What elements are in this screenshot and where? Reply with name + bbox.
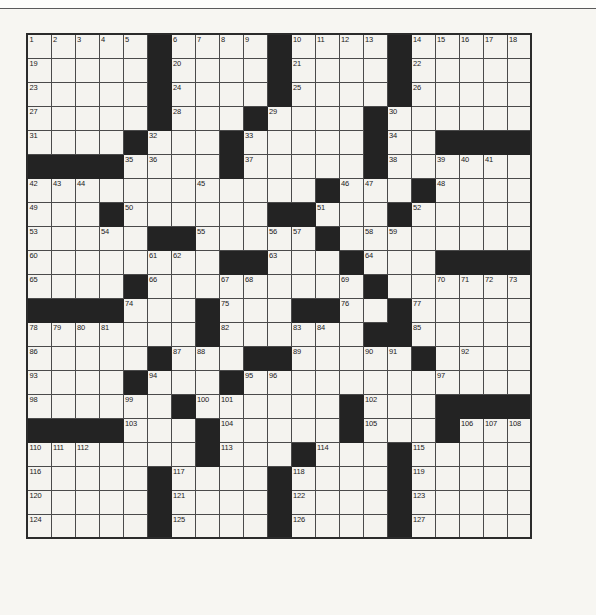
crossword-cell[interactable]: 108	[507, 418, 531, 442]
crossword-cell[interactable]	[483, 466, 507, 490]
crossword-cell[interactable]	[315, 370, 339, 394]
crossword-cell[interactable]	[99, 130, 123, 154]
crossword-cell[interactable]	[363, 370, 387, 394]
crossword-cell[interactable]: 8	[219, 34, 243, 58]
crossword-cell[interactable]	[147, 442, 171, 466]
crossword-cell[interactable]	[507, 322, 531, 346]
crossword-cell[interactable]: 78	[27, 322, 51, 346]
crossword-cell[interactable]: 16	[459, 34, 483, 58]
crossword-cell[interactable]	[435, 346, 459, 370]
crossword-cell[interactable]	[195, 154, 219, 178]
crossword-cell[interactable]	[507, 490, 531, 514]
crossword-cell[interactable]: 93	[27, 370, 51, 394]
crossword-cell[interactable]	[507, 370, 531, 394]
crossword-cell[interactable]: 61	[147, 250, 171, 274]
crossword-cell[interactable]	[75, 370, 99, 394]
crossword-cell[interactable]: 36	[147, 154, 171, 178]
crossword-cell[interactable]	[195, 466, 219, 490]
crossword-cell[interactable]	[123, 106, 147, 130]
crossword-cell[interactable]	[171, 130, 195, 154]
crossword-cell[interactable]: 55	[195, 226, 219, 250]
crossword-cell[interactable]	[483, 58, 507, 82]
crossword-cell[interactable]: 75	[219, 298, 243, 322]
crossword-cell[interactable]: 117	[171, 466, 195, 490]
crossword-cell[interactable]: 66	[147, 274, 171, 298]
crossword-cell[interactable]: 45	[195, 178, 219, 202]
crossword-cell[interactable]: 54	[99, 226, 123, 250]
crossword-cell[interactable]	[267, 274, 291, 298]
crossword-cell[interactable]	[123, 490, 147, 514]
crossword-cell[interactable]	[291, 178, 315, 202]
crossword-cell[interactable]	[435, 298, 459, 322]
crossword-cell[interactable]: 30	[387, 106, 411, 130]
crossword-cell[interactable]	[51, 58, 75, 82]
crossword-cell[interactable]	[363, 58, 387, 82]
crossword-cell[interactable]	[459, 370, 483, 394]
crossword-cell[interactable]	[459, 226, 483, 250]
crossword-cell[interactable]	[243, 466, 267, 490]
crossword-cell[interactable]	[291, 154, 315, 178]
crossword-cell[interactable]	[507, 442, 531, 466]
crossword-cell[interactable]	[51, 466, 75, 490]
crossword-cell[interactable]: 114	[315, 442, 339, 466]
crossword-cell[interactable]: 3	[75, 34, 99, 58]
crossword-cell[interactable]	[147, 322, 171, 346]
crossword-cell[interactable]: 68	[243, 274, 267, 298]
crossword-cell[interactable]: 99	[123, 394, 147, 418]
crossword-cell[interactable]: 119	[411, 466, 435, 490]
crossword-cell[interactable]	[411, 154, 435, 178]
crossword-cell[interactable]: 10	[291, 34, 315, 58]
crossword-cell[interactable]	[99, 370, 123, 394]
crossword-cell[interactable]	[123, 82, 147, 106]
crossword-cell[interactable]	[315, 154, 339, 178]
crossword-cell[interactable]	[123, 250, 147, 274]
crossword-cell[interactable]	[483, 298, 507, 322]
crossword-cell[interactable]: 124	[27, 514, 51, 538]
crossword-cell[interactable]: 82	[219, 322, 243, 346]
crossword-cell[interactable]	[483, 370, 507, 394]
crossword-cell[interactable]: 85	[411, 322, 435, 346]
crossword-cell[interactable]	[411, 130, 435, 154]
crossword-cell[interactable]: 12	[339, 34, 363, 58]
crossword-cell[interactable]	[291, 274, 315, 298]
crossword-cell[interactable]	[243, 226, 267, 250]
crossword-cell[interactable]	[75, 346, 99, 370]
crossword-cell[interactable]	[75, 226, 99, 250]
crossword-cell[interactable]	[123, 442, 147, 466]
crossword-cell[interactable]	[315, 466, 339, 490]
crossword-cell[interactable]	[267, 178, 291, 202]
crossword-cell[interactable]	[507, 466, 531, 490]
crossword-cell[interactable]	[291, 370, 315, 394]
crossword-cell[interactable]	[75, 58, 99, 82]
crossword-cell[interactable]: 33	[243, 130, 267, 154]
crossword-cell[interactable]: 107	[483, 418, 507, 442]
crossword-cell[interactable]	[75, 130, 99, 154]
crossword-cell[interactable]	[363, 298, 387, 322]
crossword-cell[interactable]	[291, 418, 315, 442]
crossword-cell[interactable]: 13	[363, 34, 387, 58]
crossword-cell[interactable]	[363, 202, 387, 226]
crossword-cell[interactable]	[507, 298, 531, 322]
crossword-cell[interactable]: 90	[363, 346, 387, 370]
crossword-cell[interactable]: 84	[315, 322, 339, 346]
crossword-cell[interactable]	[315, 250, 339, 274]
crossword-cell[interactable]: 102	[363, 394, 387, 418]
crossword-cell[interactable]: 64	[363, 250, 387, 274]
crossword-cell[interactable]: 110	[27, 442, 51, 466]
crossword-cell[interactable]: 51	[315, 202, 339, 226]
crossword-cell[interactable]: 104	[219, 418, 243, 442]
crossword-cell[interactable]	[507, 106, 531, 130]
crossword-cell[interactable]: 118	[291, 466, 315, 490]
crossword-cell[interactable]	[267, 298, 291, 322]
crossword-cell[interactable]: 32	[147, 130, 171, 154]
crossword-cell[interactable]: 31	[27, 130, 51, 154]
crossword-cell[interactable]	[99, 274, 123, 298]
crossword-cell[interactable]: 122	[291, 490, 315, 514]
crossword-cell[interactable]	[363, 442, 387, 466]
crossword-cell[interactable]	[315, 418, 339, 442]
crossword-cell[interactable]: 22	[411, 58, 435, 82]
crossword-cell[interactable]	[339, 58, 363, 82]
crossword-cell[interactable]	[195, 202, 219, 226]
crossword-cell[interactable]: 6	[171, 34, 195, 58]
crossword-cell[interactable]	[339, 202, 363, 226]
